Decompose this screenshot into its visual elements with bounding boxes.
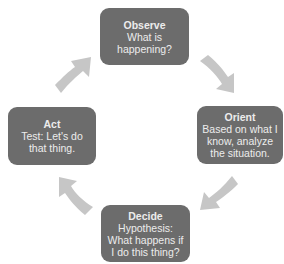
arrow-up-right-icon (53, 53, 97, 97)
node-observe-text: What is happening? (104, 31, 185, 55)
arrow-up-left-icon (53, 173, 97, 217)
node-act: Act Test: Let's do that thing. (8, 107, 96, 165)
node-act-text: Test: Let's do that thing. (12, 130, 92, 154)
arrow-down-left-icon (196, 172, 240, 216)
node-observe: Observe What is happening? (100, 8, 189, 65)
node-decide-title: Decide (128, 210, 162, 222)
node-orient-text: Based on what I know, analyze the situat… (201, 123, 279, 159)
node-orient-title: Orient (225, 111, 256, 123)
node-decide-text: Hypothesis: What happens if I do this th… (105, 222, 186, 258)
arrow-down-right-icon (196, 53, 240, 97)
node-observe-title: Observe (123, 19, 165, 31)
node-orient: Orient Based on what I know, analyze the… (197, 106, 283, 164)
node-decide: Decide Hypothesis: What happens if I do … (101, 205, 190, 262)
node-act-title: Act (44, 118, 61, 130)
